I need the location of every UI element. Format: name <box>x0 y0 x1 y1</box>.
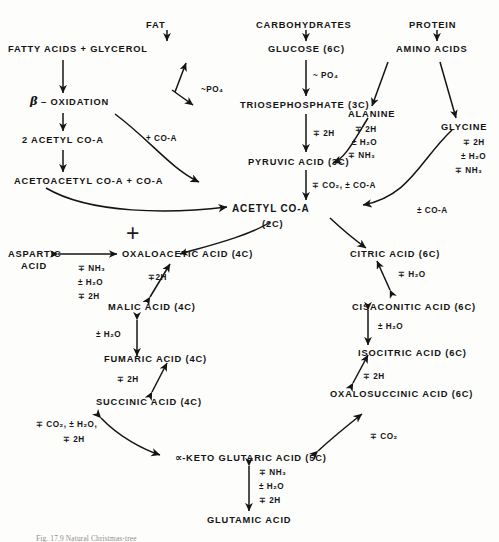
cofactor-glutamic-nh3: ∓ NH₃ <box>259 467 286 479</box>
figure-caption: Fig. 17.9 Natural Christmas-tree <box>36 534 137 542</box>
node-beta-oxidation: β – OXIDATION <box>30 96 109 108</box>
node-acetyl-coa: ACETYL CO-A <box>232 203 310 214</box>
junction-plus-symbol: + <box>126 222 139 245</box>
cofactor-aspartic-h2o: ± H₂O <box>78 277 103 289</box>
arrow-amino-acids-to-glycine <box>440 62 456 118</box>
cofactor-fumaric-succinic-2h: ∓ 2H <box>117 374 139 386</box>
cofactor-glycine-coa: ± CO-A <box>417 205 448 217</box>
node-two-acetyl-coa: 2 ACETYL CO-A <box>22 135 104 146</box>
arrow-acetyl-coa-to-citric-acid <box>330 218 366 248</box>
node-pyruvic-acid: PYRUVIC ACID (3C) <box>248 157 349 168</box>
cofactor-succinic-keto-line1: ∓ CO₂, ± H₂O, <box>36 419 97 431</box>
metabolic-pathway-figure: FAT CARBOHYDRATES PROTEIN FATTY ACIDS + … <box>0 0 499 542</box>
node-glycine: GLYCINE <box>441 122 487 133</box>
cofactor-alanine-h2o: ± H₂O <box>352 137 377 149</box>
arrow-fumaric-succinic-reversible <box>152 363 167 392</box>
cofactor-oxalo-keto-co2: ∓ CO₂ <box>370 431 398 443</box>
node-carbohydrates: CARBOHYDRATES <box>256 20 352 31</box>
cofactor-plus-coa-upper: + CO-A <box>146 133 177 145</box>
aspartic-acid-line2: ACID <box>21 261 47 271</box>
node-succinic-acid: SUCCINIC ACID (4C) <box>96 397 202 408</box>
cofactor-po4-glucose: ~ PO₄ <box>313 70 338 82</box>
node-acetyl-coa-carbons: (2C) <box>262 219 283 230</box>
cofactor-oxaloacetic-malic-2h: ∓2H <box>148 272 167 284</box>
node-fumaric-acid: FUMARIC ACID (4C) <box>104 354 207 365</box>
cofactor-glutamic-2h: ∓ 2H <box>259 495 281 507</box>
node-keto-glutaric-acid: ∝-KETO GLUTARIC ACID (5C) <box>175 452 327 464</box>
cofactor-glycine-2h: ∓ 2H <box>463 137 485 149</box>
node-malic-acid: MALIC ACID (4C) <box>108 302 196 313</box>
cofactor-succinic-keto-line2: ∓ 2H <box>63 434 85 446</box>
node-glutamic-acid: GLUTAMIC ACID <box>207 515 291 526</box>
node-alanine: ALANINE <box>348 109 395 120</box>
cofactor-malic-fumaric-h2o: ± H₂O <box>96 329 121 341</box>
cofactor-aspartic-nh3: ∓ NH₃ <box>78 263 105 275</box>
arrow-beta-oxidation-to-acetyl-coa-curve <box>115 114 199 182</box>
keto-glutaric-label: -KETO GLUTARIC ACID (5C) <box>182 453 327 463</box>
cofactor-2h-triosephosphate: ∓ 2H <box>313 128 335 140</box>
beta-oxidation-label: – OXIDATION <box>38 97 110 107</box>
cofactor-glutamic-h2o: ± H₂O <box>259 481 284 493</box>
arrow-succinic-ketoglutaric-reversible <box>101 418 160 455</box>
arrow-oxalosuccinic-ketoglutaric-reversible <box>318 414 362 451</box>
node-glucose: GLUCOSE (6C) <box>268 44 345 55</box>
node-acetoacetyl-coa: ACETOACETYL CO-A + CO-A <box>14 176 163 187</box>
cofactor-co2-coa-pyruvate: ∓ CO₂, ± CO-A <box>312 180 376 192</box>
cofactor-glycine-h2o: ± H₂O <box>461 151 486 163</box>
cofactor-cisaconitic-isocitric-h2o: ± H₂O <box>378 321 403 333</box>
arrow-citric-cisaconitic-reversible <box>377 261 390 290</box>
arrow-glycerol-phosphorylation-up <box>175 63 186 92</box>
beta-symbol: β <box>30 94 38 108</box>
node-aspartic-acid: ASPARTICACID <box>8 249 60 272</box>
node-oxalosuccinic-acid: OXALOSUCCINIC ACID (6C) <box>330 389 473 400</box>
node-citric-acid: CITRIC ACID (6C) <box>350 249 440 260</box>
arrow-amino-acids-to-alanine <box>372 62 388 106</box>
cofactor-isocitric-oxalo-2h: ∓ 2H <box>363 371 385 383</box>
aspartic-acid-line1: ASPARTIC <box>8 249 62 259</box>
node-protein: PROTEIN <box>409 20 456 31</box>
node-oxaloacetic-acid: OXALOACETIC ACID (4C) <box>122 249 253 260</box>
node-fatty-acids-glycerol: FATTY ACIDS + GLYCEROL <box>8 44 148 55</box>
node-cisaconitic-acid: CISACONITIC ACID (6C) <box>352 302 476 313</box>
cofactor-aspartic-2h: ∓ 2H <box>78 291 100 303</box>
node-amino-acids: AMINO ACIDS <box>396 44 468 55</box>
cofactor-alanine-2h: ∓ 2H <box>355 124 377 136</box>
node-isocitric-acid: ISOCITRIC ACID (6C) <box>358 348 467 359</box>
cofactor-citric-cisaconitic-h2o: ∓ H₂O <box>398 269 426 281</box>
node-fat: FAT <box>146 20 165 31</box>
arrow-glycerol-to-triosephosphate <box>172 90 193 105</box>
cofactor-alanine-nh3: ∓ NH₃ <box>348 150 375 162</box>
cofactor-po4-glycerol: ~PO₄ <box>201 84 224 96</box>
cofactor-glycine-nh3: ∓ NH₃ <box>455 165 482 177</box>
arrow-acetoacetyl-to-acetyl-coa <box>46 188 227 211</box>
